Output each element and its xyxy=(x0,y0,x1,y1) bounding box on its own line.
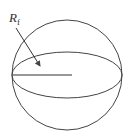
radius-label: Rf xyxy=(8,10,20,27)
sphere-diagram: Rf xyxy=(0,0,127,131)
